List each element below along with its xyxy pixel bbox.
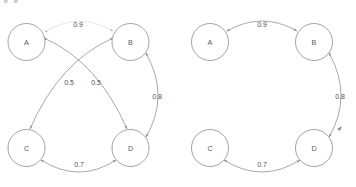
edge-weight-left-a-d: 0.5 (64, 79, 74, 86)
graph-right: A B C D 0.9 0.8 0.7 (192, 21, 345, 173)
edge-weight-left-b-d: 0.8 (152, 93, 162, 100)
stray-arrow-mark-icon (337, 126, 342, 131)
node-label-left-a: A (24, 38, 29, 47)
edge-weight-right-a-b: 0.9 (257, 21, 267, 28)
graph-svg-layer: A B C D 0.9 0.5 0.5 0.8 0.7 A B C D (0, 0, 356, 187)
graph-left: A B C D 0.9 0.5 0.5 0.8 0.7 (8, 21, 162, 173)
node-label-right-b: B (312, 38, 317, 47)
edge-weight-right-c-d: 0.7 (257, 161, 267, 168)
node-label-right-c: C (207, 144, 212, 153)
node-label-left-c: C (24, 144, 29, 153)
node-label-left-d: D (128, 144, 133, 153)
node-label-left-b: B (128, 38, 133, 47)
diagram-canvas: A B C D 0.9 0.5 0.5 0.8 0.7 A B C D (0, 0, 356, 187)
edge-weight-left-c-d: 0.7 (74, 161, 84, 168)
top-clipped-marks (4, 0, 18, 3)
node-label-right-d: D (311, 144, 316, 153)
edge-weight-left-a-b: 0.9 (73, 21, 83, 28)
clipped-mark-right-icon (14, 0, 18, 3)
edge-weight-left-b-c: 0.5 (91, 79, 101, 86)
edge-weight-right-b-d: 0.8 (335, 93, 345, 100)
clipped-mark-left-icon (4, 0, 8, 3)
node-label-right-a: A (208, 38, 213, 47)
